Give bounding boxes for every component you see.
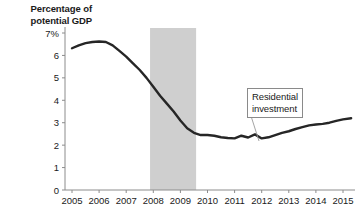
data-series-group: [72, 42, 351, 139]
y-tick-label: 7%: [45, 28, 59, 39]
y-tick-label: 5: [54, 72, 59, 83]
x-tick-label: 2006: [89, 195, 110, 206]
x-axis: 2005200620072008200920102011201220132014…: [61, 190, 355, 206]
x-tick-label: 2011: [224, 195, 244, 206]
x-tick-label: 2012: [251, 195, 272, 206]
series-line-residential-investment: [72, 42, 351, 139]
y-tick-label: 2: [54, 140, 59, 151]
annotation-leaders: [251, 116, 259, 141]
x-tick-label: 2005: [61, 195, 82, 206]
plot-area: 01234567% 200520062007200820092010201120…: [0, 0, 360, 213]
callout-line2: investment: [252, 103, 297, 114]
x-tick-label: 2015: [332, 195, 353, 206]
x-tick-label: 2008: [143, 195, 164, 206]
chart-container: Percentage of potential GDP 01234567% 20…: [0, 0, 360, 213]
x-tick-label: 2013: [278, 195, 299, 206]
x-tick-label: 2009: [170, 195, 191, 206]
residential-investment-callout: Residential investment: [247, 88, 303, 118]
y-tick-group: 01234567%: [45, 28, 65, 196]
y-axis: 01234567%: [45, 27, 65, 196]
shaded-regions: [150, 28, 196, 190]
x-tick-label: 2014: [305, 195, 326, 206]
recession-band: [150, 28, 196, 190]
callout-leader-line: [251, 116, 259, 141]
callout-line1: Residential: [252, 91, 298, 102]
y-tick-label: 6: [54, 50, 59, 61]
y-tick-label: 3: [54, 117, 59, 128]
y-tick-label: 1: [54, 162, 59, 173]
y-tick-label: 4: [54, 95, 59, 106]
x-tick-label: 2007: [116, 195, 137, 206]
y-tick-label: 0: [54, 185, 59, 196]
x-tick-label: 2010: [197, 195, 218, 206]
x-tick-group: 2005200620072008200920102011201220132014…: [61, 190, 353, 206]
